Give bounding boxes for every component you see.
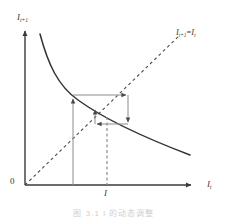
figure-caption: 图 3.1 I 的动态调整 [0, 207, 228, 218]
diagonal-line-label: It+1=It [176, 28, 196, 37]
x-axis-label-subscript: t [210, 184, 212, 190]
origin-label: 0 [10, 177, 15, 186]
diagonal-rhs-subscript: t [194, 32, 195, 38]
equilibrium-label: I [104, 189, 107, 198]
figure-container: It+1 It 0 It+1=It I 图 3.1 I 的动态调整 [0, 0, 228, 220]
diagonal-lhs-subscript: t+1 [179, 32, 187, 38]
y-axis-label: It+1 [17, 13, 28, 22]
y-axis-label-subscript: t+1 [20, 17, 28, 23]
x-axis-label: It [207, 180, 212, 189]
